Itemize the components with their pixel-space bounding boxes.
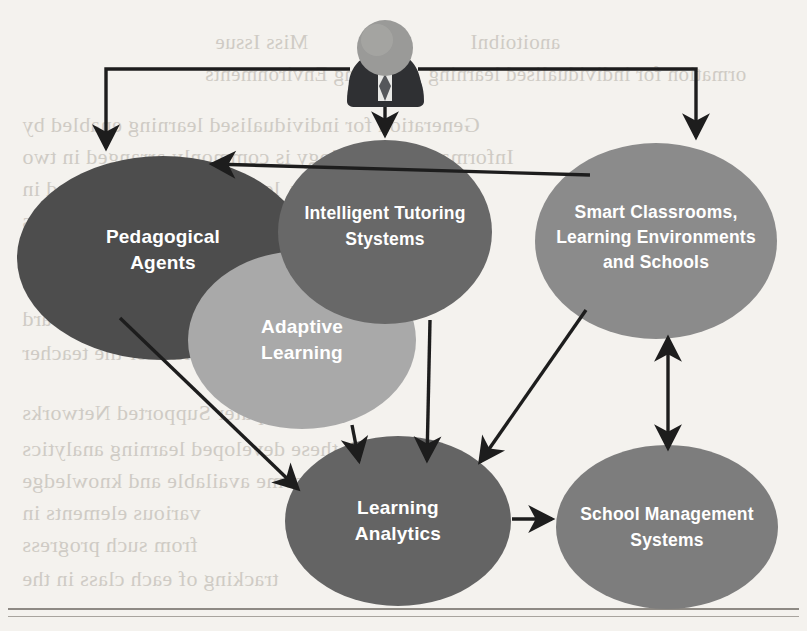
node-adaptive-learning-label-line1: Adaptive [261, 316, 343, 337]
node-smart-classrooms[interactable]: Smart Classrooms, Learning Environments … [535, 143, 777, 339]
node-intelligent-tutoring-systems-label-line2: Stystems [345, 229, 424, 249]
node-school-management-systems-label-line1: School Management [580, 504, 754, 524]
figure-canvas: Miss IssueLearning Environmentsanoitoibn… [0, 0, 807, 631]
node-intelligent-tutoring-systems-label-line1: Intelligent Tutoring [304, 203, 465, 223]
node-learning-analytics-label-line2: Analytics [355, 523, 441, 544]
node-smart-classrooms-label-line3: and Schools [603, 252, 709, 272]
person-icon-head-highlight [361, 24, 393, 56]
edge-smart-classrooms-to-learning-analytics [480, 310, 586, 462]
node-smart-classrooms-label-line2: Learning Environments [556, 227, 756, 247]
node-pedagogical-agents-label-line2: Agents [130, 252, 196, 273]
node-pedagogical-agents-label-line1: Pedagogical [106, 226, 220, 247]
node-smart-classrooms-label-line1: Smart Classrooms, [575, 202, 738, 222]
node-adaptive-learning-label-line2: Learning [261, 342, 343, 363]
node-learning-analytics-label-line1: Learning [357, 497, 439, 518]
ecosystem-diagram: Pedagogical Agents Adaptive Learning Int… [0, 0, 807, 631]
node-school-management-systems[interactable]: School Management Systems [556, 445, 778, 609]
edge-user-to-smart-classrooms [418, 69, 696, 137]
node-learning-analytics-shape [285, 436, 511, 606]
edge-intelligent-tutoring-systems-to-learning-analytics [427, 320, 430, 460]
node-school-management-systems-shape [556, 445, 778, 609]
edge-user-to-pedagogical-agents [106, 69, 350, 148]
user-avatar[interactable] [347, 20, 424, 107]
node-learning-analytics[interactable]: Learning Analytics [285, 436, 511, 606]
node-school-management-systems-label-line2: Systems [630, 530, 703, 550]
